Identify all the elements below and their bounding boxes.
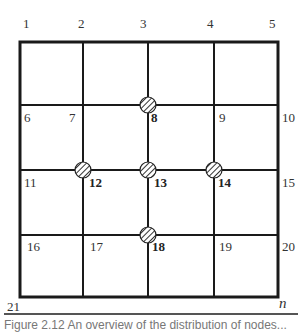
node-label-6: 6 (24, 111, 31, 124)
node-label-17: 17 (90, 240, 103, 253)
node-label-2: 2 (78, 17, 85, 30)
node-label-16: 16 (27, 240, 40, 253)
node-label-7: 7 (69, 111, 76, 124)
node-label-15: 15 (282, 176, 295, 189)
node-label-20: 20 (282, 240, 295, 253)
node-label-12: 12 (89, 176, 102, 189)
node-label-13: 13 (154, 176, 167, 189)
node-label-10: 10 (282, 111, 295, 124)
node-label-9: 9 (219, 111, 226, 124)
node-label-n: n (279, 297, 287, 310)
caption-divider (4, 313, 298, 315)
node-label-1: 1 (23, 17, 30, 30)
node-label-5: 5 (269, 17, 276, 30)
figure-caption: Figure 2.12 An overview of the distribut… (4, 318, 287, 332)
node-label-14: 14 (218, 176, 231, 189)
node-label-8: 8 (151, 111, 158, 124)
node-label-21: 21 (7, 300, 20, 313)
node-label-4: 4 (207, 17, 214, 30)
node-label-3: 3 (140, 17, 147, 30)
node-label-11: 11 (24, 176, 37, 189)
node-label-18: 18 (152, 240, 165, 253)
node-label-19: 19 (219, 240, 232, 253)
